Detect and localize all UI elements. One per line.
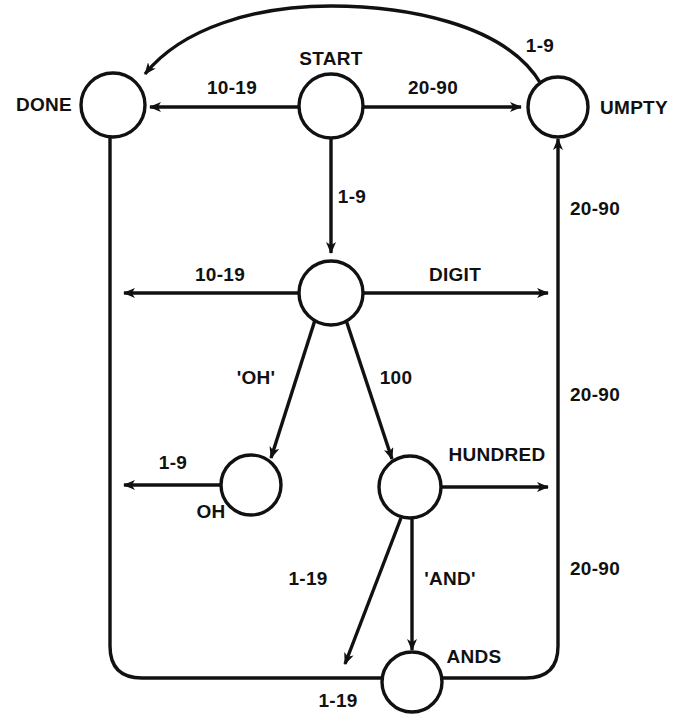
edge-label-hundred-to-ands: 'AND' xyxy=(424,569,476,588)
edge-label-digit-to-hundred: 100 xyxy=(380,368,413,387)
edge-label-start-to-digit: 1-9 xyxy=(338,187,366,206)
edge-label-digit-to-done: 10-19 xyxy=(195,265,245,284)
state-node-hundred[interactable] xyxy=(379,456,441,518)
state-label-start: START xyxy=(299,49,362,68)
edge-label-umpty-to-done: 1-9 xyxy=(526,36,554,55)
edge-digit-to-oh xyxy=(271,320,315,458)
edge-label-digit-to-umpty: 20-90 xyxy=(570,199,620,218)
state-label-done: DONE xyxy=(16,95,72,114)
state-diagram-canvas xyxy=(0,0,684,722)
state-label-hundred: HUNDRED xyxy=(448,445,545,464)
edge-label-hundred-to-umpty: 20-90 xyxy=(570,385,620,404)
state-node-ands[interactable] xyxy=(382,652,442,712)
edge-umpty-to-done xyxy=(145,6,541,84)
edge-digit-to-hundred xyxy=(346,320,392,459)
state-diagram: DONE START UMPTY DIGIT OH HUNDRED ANDS 1… xyxy=(0,0,684,722)
edge-label-ands-to-umpty: 20-90 xyxy=(570,559,620,578)
state-label-umpty: UMPTY xyxy=(600,98,668,117)
state-node-done[interactable] xyxy=(81,73,145,137)
edge-label-ands-to-done: 1-19 xyxy=(318,691,357,710)
edge-hundred-to-done xyxy=(345,518,401,664)
state-node-umpty[interactable] xyxy=(528,77,588,137)
state-label-ands: ANDS xyxy=(446,647,501,666)
rail-left-done-to-bottom xyxy=(110,137,382,678)
edge-label-start-to-done: 10-19 xyxy=(207,78,257,97)
edge-label-oh-to-done: 1-9 xyxy=(159,453,187,472)
state-label-oh: OH xyxy=(196,502,225,521)
state-label-digit: DIGIT xyxy=(429,265,481,284)
state-node-digit[interactable] xyxy=(299,261,363,325)
edge-label-start-to-umpty: 20-90 xyxy=(408,78,458,97)
rail-right-ands-to-umpty xyxy=(442,139,558,678)
state-node-oh[interactable] xyxy=(221,455,281,515)
edge-label-digit-to-oh: 'OH' xyxy=(237,368,276,387)
edge-label-hundred-to-done: 1-19 xyxy=(288,569,327,588)
state-node-start[interactable] xyxy=(299,74,363,138)
